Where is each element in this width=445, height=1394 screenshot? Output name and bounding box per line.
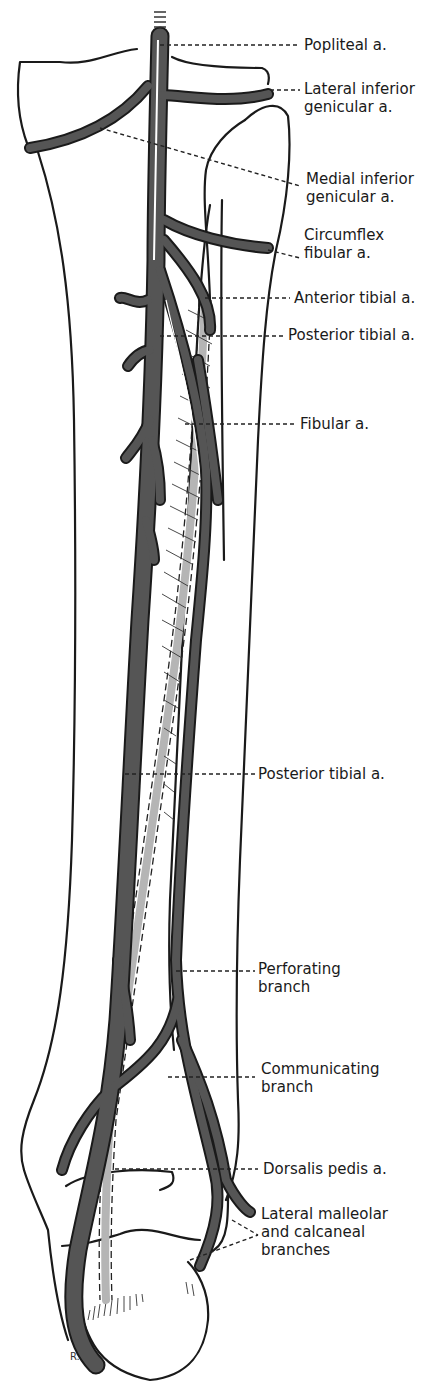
label-circumflex-fibular: Circumflexfibular a. bbox=[304, 226, 384, 262]
label-medial-inferior-genicular: Medial inferiorgenicular a. bbox=[306, 170, 414, 206]
label-posterior-tibial-lower: Posterior tibial a. bbox=[258, 765, 385, 783]
label-popliteal: Popliteal a. bbox=[304, 36, 387, 54]
label-dorsalis-pedis: Dorsalis pedis a. bbox=[263, 1160, 387, 1178]
anatomy-illustration: R.Y. bbox=[0, 0, 445, 1394]
arteries bbox=[30, 12, 268, 1365]
label-anterior-tibial: Anterior tibial a. bbox=[294, 289, 415, 307]
label-communicating-branch: Communicatingbranch bbox=[261, 1060, 380, 1096]
leg-arteries-figure: R.Y. bbox=[0, 0, 445, 1394]
label-perforating-branch: Perforatingbranch bbox=[258, 960, 341, 996]
label-lateral-malleolar-calcaneal: Lateral malleolarand calcanealbranches bbox=[261, 1205, 388, 1259]
label-lateral-inferior-genicular: Lateral inferiorgenicular a. bbox=[304, 80, 415, 116]
label-fibular: Fibular a. bbox=[300, 415, 369, 433]
label-posterior-tibial-upper: Posterior tibial a. bbox=[288, 326, 415, 344]
